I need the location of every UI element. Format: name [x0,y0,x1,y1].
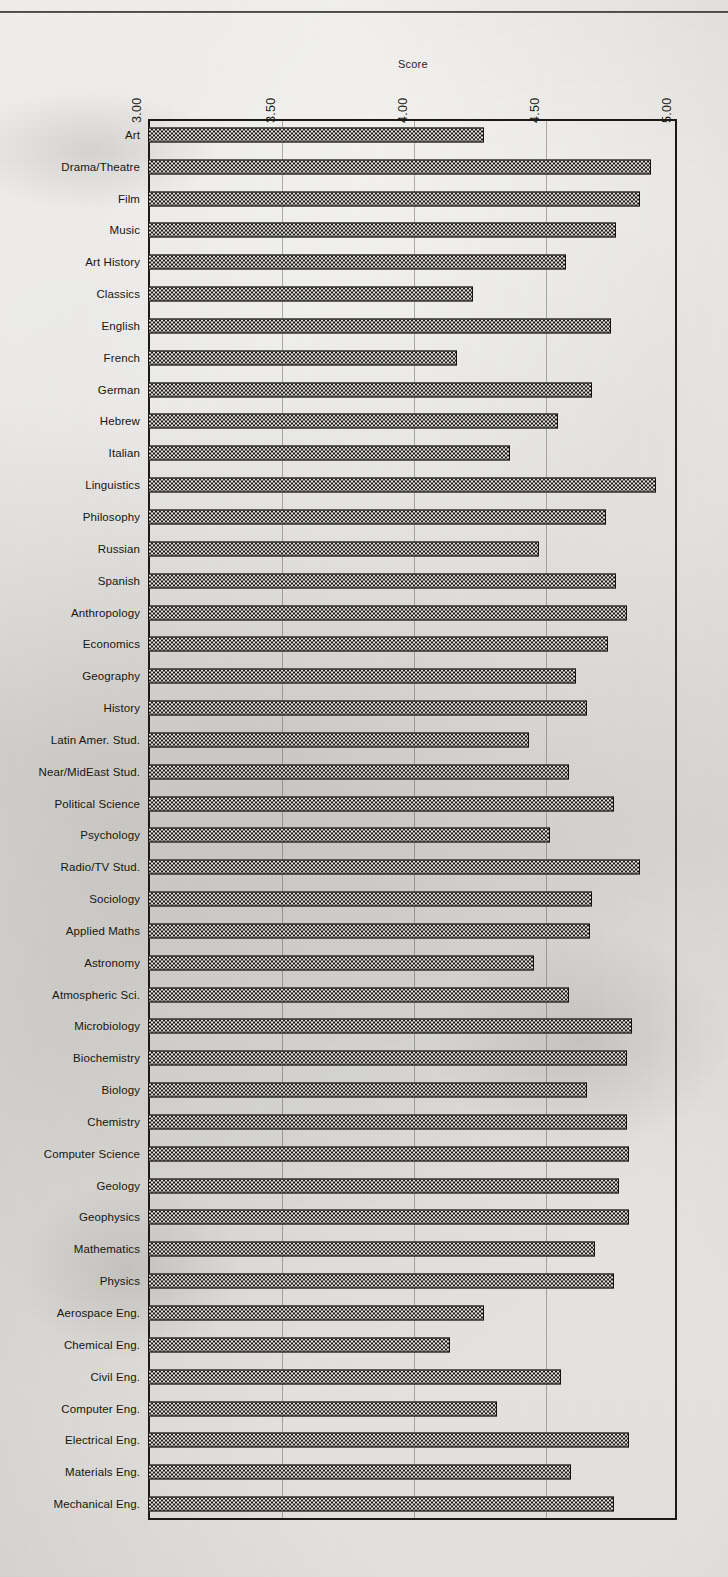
bar-row: Radio/TV Stud. [0,851,728,883]
bar-row: Art [0,119,728,151]
bar-category-label: Chemistry [87,1116,140,1128]
bar-category-label: Applied Maths [66,925,140,937]
bar-row: Linguistics [0,469,728,501]
bar [148,1401,497,1416]
bar [148,955,534,970]
bar [148,1242,595,1257]
bar [148,287,473,302]
bar-row: Geophysics [0,1202,728,1234]
bar-row: Hebrew [0,406,728,438]
bar [148,1083,587,1098]
bar-category-label: Mathematics [74,1243,140,1255]
bar-row: French [0,342,728,374]
bar-category-label: Civil Eng. [90,1371,140,1383]
bar [148,669,576,684]
bar [148,1497,614,1512]
bar-row: Biology [0,1074,728,1106]
bar [148,1051,627,1066]
bar [148,1369,561,1384]
bar [148,1210,629,1225]
bar [148,573,616,588]
bar-row: Art History [0,246,728,278]
bar [148,1114,627,1129]
bar-category-label: Psychology [80,829,140,841]
bar-category-label: Microbiology [74,1020,140,1032]
bar-category-label: Classics [96,288,140,300]
bar-row: Chemistry [0,1106,728,1138]
bar [148,1306,484,1321]
bar [148,828,550,843]
bar-row: Film [0,183,728,215]
bar-category-label: Economics [83,638,140,650]
bar-category-label: Astronomy [84,957,140,969]
bar [148,1433,629,1448]
bar [148,701,587,716]
bar-category-label: Materials Eng. [65,1466,140,1478]
bar [148,541,539,556]
bar-category-label: Political Science [55,798,140,810]
bar [148,255,566,270]
bar [148,892,592,907]
bar-category-label: History [104,702,140,714]
bar [148,350,457,365]
bar-category-label: Physics [100,1275,140,1287]
bar-row: Applied Maths [0,915,728,947]
bar-row: Psychology [0,820,728,852]
bar-row: Geography [0,660,728,692]
bar [148,732,529,747]
bar [148,509,606,524]
bar-category-label: Near/MidEast Stud. [38,766,140,778]
bar-category-label: Mechanical Eng. [53,1498,140,1510]
bar [148,1019,632,1034]
bar-row: Anthropology [0,597,728,629]
bar [148,318,611,333]
bar-category-label: English [102,320,140,332]
bar-category-label: Philosophy [83,511,140,523]
bar-row: Russian [0,533,728,565]
bar-row: Atmospheric Sci. [0,979,728,1011]
bar [148,446,510,461]
bar [148,382,592,397]
bar [148,1337,450,1352]
bar [148,1465,571,1480]
bar-category-label: Biology [102,1084,140,1096]
bar-row: Drama/Theatre [0,151,728,183]
bar-row: German [0,374,728,406]
bar-row: English [0,310,728,342]
bar-row: Economics [0,628,728,660]
bar-category-label: Atmospheric Sci. [52,989,140,1001]
bar-category-label: Computer Eng. [61,1403,140,1415]
bar-row: Materials Eng. [0,1456,728,1488]
bar [148,1178,619,1193]
bar [148,605,627,620]
bar-category-label: Art [125,129,140,141]
bar-row: Microbiology [0,1011,728,1043]
bar-category-label: Computer Science [44,1148,140,1160]
bar-row: Electrical Eng. [0,1424,728,1456]
bar-category-label: Radio/TV Stud. [61,861,140,873]
bar [148,1274,614,1289]
bar-row: Physics [0,1265,728,1297]
bar [148,987,569,1002]
bar-category-label: Italian [109,447,140,459]
bar-category-label: Geology [96,1180,140,1192]
bar-row: Mechanical Eng. [0,1488,728,1520]
bar-category-label: Drama/Theatre [61,161,140,173]
bar-category-label: Art History [85,256,140,268]
bar-row: Spanish [0,565,728,597]
bar-series: ArtDrama/TheatreFilmMusicArt HistoryClas… [0,119,728,1520]
bar-category-label: Anthropology [71,607,140,619]
bar-row: Geology [0,1170,728,1202]
bar-row: Computer Eng. [0,1393,728,1425]
bar-row: Chemical Eng. [0,1329,728,1361]
bar-category-label: Music [109,224,140,236]
bar-category-label: Hebrew [100,415,140,427]
bar-category-label: Film [118,193,140,205]
bar-category-label: Spanish [98,575,140,587]
bar-row: Sociology [0,883,728,915]
bar-row: Near/MidEast Stud. [0,756,728,788]
bar [148,764,569,779]
x-axis-title: Score [398,58,428,70]
bar [148,478,656,493]
bar-row: Music [0,215,728,247]
